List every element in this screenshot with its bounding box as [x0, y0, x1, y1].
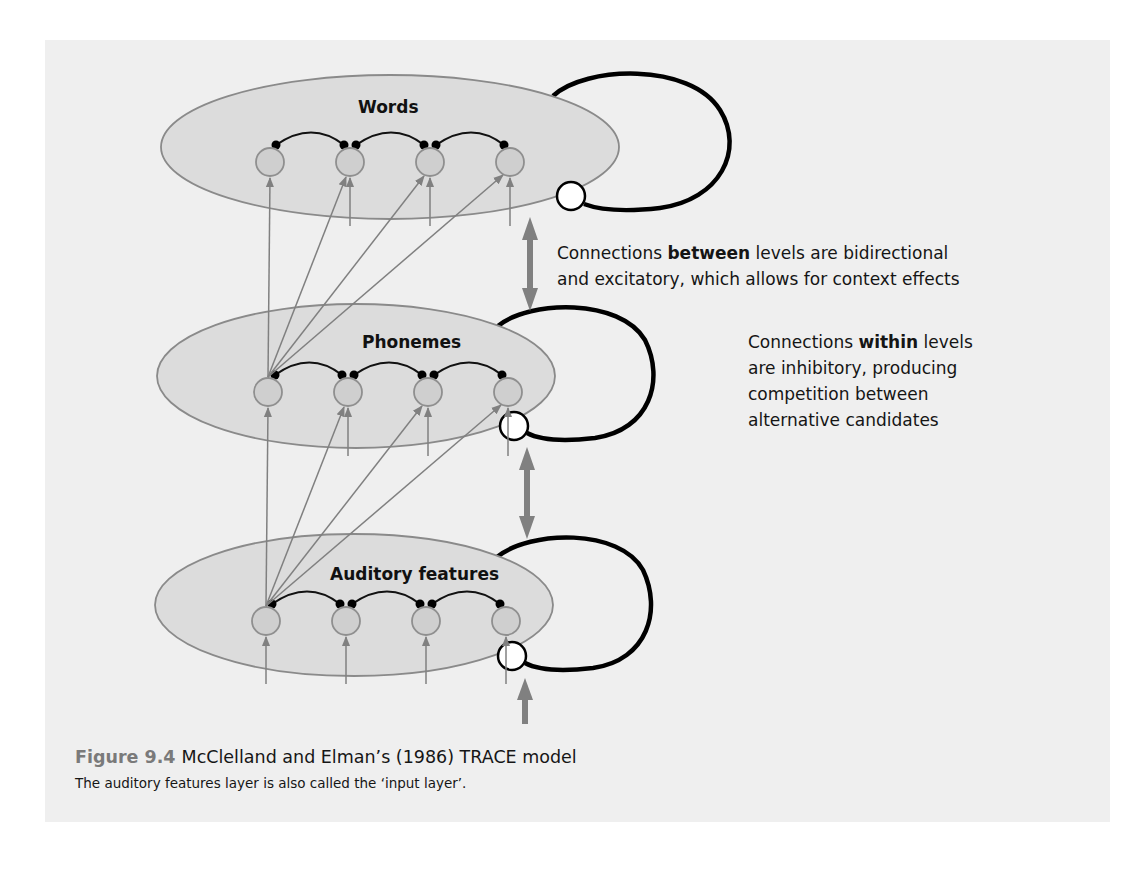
- annotation-emphasis: between: [667, 243, 750, 263]
- word-node-2: [336, 148, 364, 176]
- annotation-between-line-1: Connections between levels are bidirecti…: [557, 240, 1037, 266]
- layer-label-auditory: Auditory features: [330, 564, 499, 584]
- word-node-1: [256, 148, 284, 176]
- auditory-node-1: [252, 607, 280, 635]
- layer-label-phonemes: Phonemes: [362, 332, 461, 352]
- annotation-between-line-2: and excitatory, which allows for context…: [557, 266, 1037, 292]
- phoneme-node-3: [414, 378, 442, 406]
- bidirectional-arrow-phonemes-auditory: [519, 447, 535, 539]
- layer-words: Words: [161, 74, 730, 219]
- word-node-3: [416, 148, 444, 176]
- figure-number: Figure 9.4: [75, 747, 176, 767]
- caption-title-line: Figure 9.4McClelland and Elman’s (1986) …: [75, 744, 975, 770]
- figure-subtitle: The auditory features layer is also call…: [75, 772, 975, 794]
- phoneme-node-4: [494, 378, 522, 406]
- loop-node-words: [557, 182, 585, 210]
- auditory-node-3: [412, 607, 440, 635]
- loop-node-phonemes: [500, 412, 528, 440]
- annotation-text: Connections: [557, 243, 667, 263]
- figure-title: McClelland and Elman’s (1986) TRACE mode…: [182, 747, 577, 767]
- annotation-between-levels: Connections between levels are bidirecti…: [557, 240, 1037, 292]
- auditory-node-4: [492, 607, 520, 635]
- annotation-within-line-3: competition between: [748, 381, 1048, 407]
- layer-auditory-features: Auditory features: [155, 534, 651, 676]
- page: Words: [0, 0, 1147, 870]
- layer-label-words: Words: [358, 97, 419, 117]
- annotation-within-levels: Connections within levels are inhibitory…: [748, 329, 1048, 433]
- annotation-within-line-4: alternative candidates: [748, 407, 1048, 433]
- annotation-within-line-1: Connections within levels: [748, 329, 1048, 355]
- annotation-text: levels: [918, 332, 973, 352]
- trace-model-diagram: Words: [0, 0, 1147, 870]
- annotation-text: Connections: [748, 332, 858, 352]
- auditory-node-2: [332, 607, 360, 635]
- phoneme-node-2: [334, 378, 362, 406]
- annotation-within-line-2: are inhibitory, producing: [748, 355, 1048, 381]
- bidirectional-arrow-words-phonemes: [522, 217, 538, 311]
- annotation-emphasis: within: [858, 332, 918, 352]
- phoneme-node-1: [254, 378, 282, 406]
- word-node-4: [496, 148, 524, 176]
- loop-node-auditory: [498, 642, 526, 670]
- input-arrow: [517, 678, 533, 724]
- annotation-text: levels are bidirectional: [750, 243, 948, 263]
- figure-caption: Figure 9.4McClelland and Elman’s (1986) …: [75, 744, 975, 794]
